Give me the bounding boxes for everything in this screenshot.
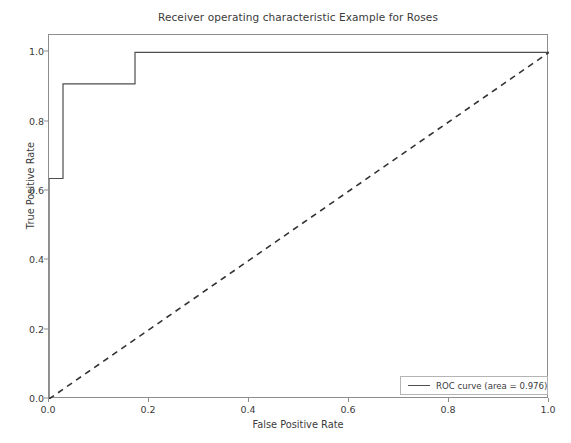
x-tick-mark	[548, 398, 549, 402]
y-tick-mark	[44, 51, 48, 52]
matplotlib-figure: Receiver operating characteristic Exampl…	[0, 0, 571, 443]
x-tick-mark	[248, 398, 249, 402]
x-axis-label: False Positive Rate	[48, 419, 548, 430]
x-tick-mark	[148, 398, 149, 402]
y-tick-label: 1.0	[10, 46, 44, 57]
y-tick-label: 0.6	[10, 185, 44, 196]
plot-canvas	[49, 35, 549, 399]
x-tick-label: 0.0	[28, 404, 68, 415]
x-tick-mark	[348, 398, 349, 402]
y-tick-mark	[44, 259, 48, 260]
x-tick-label: 0.6	[328, 404, 368, 415]
y-tick-mark	[44, 120, 48, 121]
chart-title: Receiver operating characteristic Exampl…	[48, 11, 548, 23]
x-tick-label: 0.8	[428, 404, 468, 415]
x-tick-mark	[48, 398, 49, 402]
y-tick-mark	[44, 398, 48, 399]
x-tick-label: 0.4	[228, 404, 268, 415]
y-tick-label: 0.0	[10, 393, 44, 404]
y-tick-label: 0.4	[10, 254, 44, 265]
legend-label-roc: ROC curve (area = 0.976)	[436, 381, 547, 391]
y-tick-label: 0.2	[10, 323, 44, 334]
y-tick-mark	[44, 328, 48, 329]
plot-area	[48, 34, 548, 398]
x-tick-mark	[448, 398, 449, 402]
x-tick-label: 1.0	[528, 404, 568, 415]
y-tick-label: 0.8	[10, 115, 44, 126]
legend-box: ROC curve (area = 0.976)	[400, 376, 548, 395]
legend-line-icon	[408, 382, 430, 390]
y-tick-mark	[44, 190, 48, 191]
chance-diagonal-line	[49, 52, 549, 399]
x-tick-label: 0.2	[128, 404, 168, 415]
y-axis-ticks: 0.00.20.40.60.81.0	[6, 34, 44, 398]
